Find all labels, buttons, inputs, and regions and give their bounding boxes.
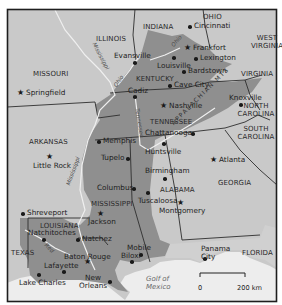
water-label-gulf-line1: Golf of — [146, 275, 169, 283]
city-marker-lexington — [194, 57, 198, 61]
state-label-illinois: ILLINOIS — [96, 35, 126, 43]
state-label-ohio: OHIO — [203, 13, 222, 21]
state-label-florida: FLORIDA — [242, 249, 273, 257]
city-label-natchez: Natchez — [82, 235, 112, 243]
scale-end-label: 200 km — [237, 284, 262, 292]
state-label-texas: TEXAS — [11, 249, 34, 257]
city-label-evansville: Evansville — [114, 52, 151, 60]
city-label-memphis: Memphis — [103, 137, 136, 145]
water-label-gulf-line2: Mexico — [146, 283, 171, 291]
capital-star-little-rock: ★ — [46, 153, 53, 161]
state-label-alabama: ALABAMA — [160, 186, 195, 194]
state-label-south-carolina: SOUTH CAROLINA — [236, 125, 276, 141]
capital-star-atlanta: ★ — [210, 156, 217, 164]
city-marker-bardstown — [182, 70, 186, 74]
map-canvas — [0, 0, 282, 305]
city-marker-biloxi — [130, 260, 134, 264]
city-label-shreveport: Shreveport — [27, 209, 67, 217]
capital-star-frankfort: ★ — [184, 44, 191, 52]
city-marker-huntsville — [162, 142, 166, 146]
city-marker-knoxville — [239, 103, 243, 107]
state-label-missouri: MISSOURI — [33, 70, 68, 78]
state-label-west-virginia: WEST VIRGINIA — [247, 34, 282, 50]
city-label-birmingham: Birmingham — [145, 167, 190, 175]
state-label-kentucky: KENTUCKY — [136, 75, 174, 83]
city-label-cadiz: Cadiz — [128, 87, 148, 95]
state-label-arkansas: ARKANSAS — [29, 138, 68, 146]
city-label-lexington: Lexington — [200, 54, 236, 62]
city-marker-birmingham — [163, 177, 167, 181]
city-label-baton-rouge: Baton Rouge — [64, 253, 111, 261]
city-marker-tupelo — [126, 157, 130, 161]
capital-star-nashville: ★ — [160, 102, 167, 110]
city-label-springfield: Springfield — [26, 89, 65, 97]
city-label-huntsville: Huntsville — [145, 148, 181, 156]
city-label-lake-charles: Lake Charles — [19, 279, 66, 287]
map: ILLINOIS INDIANA OHIO WEST VIRGINIA MISS… — [0, 0, 282, 305]
city-marker-shreveport — [21, 212, 25, 216]
city-label-columbus: Columbus — [97, 184, 133, 192]
city-marker-louisville — [172, 56, 176, 60]
city-label-tupelo: Tupelo — [101, 154, 125, 162]
city-label-natchitoches: Natchitoches — [28, 229, 76, 237]
city-marker-cave-city — [168, 84, 172, 88]
city-marker-new-orleans — [108, 280, 112, 284]
city-label-montgomery: Montgomery — [159, 207, 205, 215]
state-label-virginia: VIRGINIA — [241, 70, 273, 78]
city-marker-lake-charles — [37, 273, 41, 277]
city-label-tuscaloosa: Tuscaloosa — [138, 197, 178, 205]
city-label-chattanooga: Chattanooga — [145, 129, 192, 137]
city-label-lafayette: Lafayette — [44, 262, 79, 270]
city-label-little-rock: Little Rock — [33, 162, 71, 170]
city-label-biloxi: Biloxi — [121, 252, 141, 260]
city-label-louisville: Louisville — [157, 62, 191, 70]
city-label-knoxville: Knoxville — [229, 94, 262, 102]
city-label-frankfort: Frankfort — [193, 44, 226, 52]
state-label-georgia: GEORGIA — [218, 179, 251, 187]
city-marker-evansville — [133, 61, 137, 65]
city-label-panama-city: Panama City — [201, 245, 231, 261]
state-label-indiana: INDIANA — [143, 23, 173, 31]
city-label-new-orleans: New Orleans — [78, 274, 108, 290]
capital-star-springfield: ★ — [17, 89, 24, 97]
city-label-atlanta: Atlanta — [219, 156, 245, 164]
city-marker-cincinnati — [188, 25, 192, 29]
state-label-mississippi: MISSISSIPPI — [91, 200, 133, 208]
city-marker-natchitoches — [42, 238, 46, 242]
city-marker-tuscaloosa — [146, 191, 150, 195]
city-label-jackson: Jackson — [88, 218, 116, 226]
city-label-cincinnati: Cincinnati — [194, 22, 230, 30]
city-marker-cadiz — [133, 95, 137, 99]
scale-start-label: 0 — [198, 284, 202, 292]
city-marker-natchez — [76, 238, 80, 242]
city-marker-lafayette — [62, 270, 66, 274]
city-marker-memphis — [97, 140, 101, 144]
